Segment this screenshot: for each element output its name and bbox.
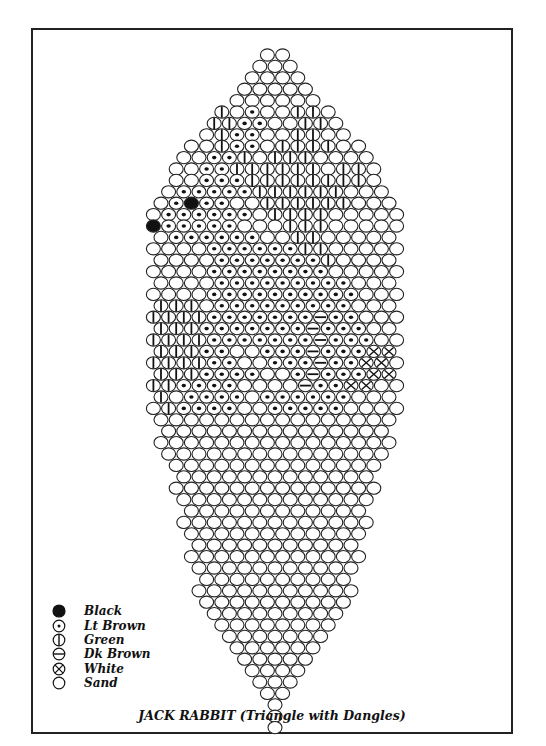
bead [374, 402, 388, 414]
bead [276, 72, 290, 84]
bead [253, 288, 267, 300]
bead [245, 129, 259, 141]
bead [253, 152, 267, 164]
bead [215, 505, 229, 517]
bead [314, 425, 328, 437]
bead [359, 209, 373, 221]
bead [222, 117, 236, 129]
bead [298, 471, 312, 483]
bead [253, 494, 267, 506]
dotted-circle-icon [52, 619, 66, 633]
bead [215, 459, 229, 471]
bead [336, 197, 350, 209]
bead [184, 254, 198, 266]
bead [215, 163, 229, 175]
bead [268, 186, 282, 198]
bead [336, 482, 350, 494]
bead [352, 414, 366, 426]
bead [276, 300, 290, 312]
bead [260, 482, 274, 494]
bead [169, 231, 183, 243]
bead [268, 357, 282, 369]
bead [146, 334, 160, 346]
bead [283, 83, 297, 95]
bead [306, 368, 320, 380]
bead [374, 448, 388, 460]
bead [169, 277, 183, 289]
pattern-title: JACK RABBIT (Triangle with Dangles) [31, 708, 513, 723]
bead [283, 60, 297, 72]
bead [314, 266, 328, 278]
bead [306, 528, 320, 540]
bead [222, 471, 236, 483]
bead [344, 380, 358, 392]
bead [230, 368, 244, 380]
bead [146, 311, 160, 323]
bead [215, 197, 229, 209]
bead [253, 516, 267, 528]
bead [260, 254, 274, 266]
bead [222, 266, 236, 278]
bead [192, 516, 206, 528]
bead [298, 630, 312, 642]
bead [230, 482, 244, 494]
bead [367, 459, 381, 471]
bead [200, 323, 214, 335]
bead [253, 425, 267, 437]
bead [298, 288, 312, 300]
bead [238, 585, 252, 597]
bead [268, 60, 282, 72]
bead [390, 357, 404, 369]
bead [359, 334, 373, 346]
bead [154, 323, 168, 335]
bead [276, 391, 290, 403]
legend-label: Lt Brown [84, 619, 146, 633]
bead [374, 243, 388, 255]
bead [314, 380, 328, 392]
bead [283, 288, 297, 300]
bead [352, 459, 366, 471]
bead [184, 551, 198, 563]
bead [321, 505, 335, 517]
bead [268, 83, 282, 95]
bead [253, 243, 267, 255]
legend-label: Green [84, 633, 125, 647]
bead [184, 482, 198, 494]
bead [329, 209, 343, 221]
bead [238, 152, 252, 164]
bead [329, 266, 343, 278]
bead [162, 357, 176, 369]
bead [238, 539, 252, 551]
bead [222, 585, 236, 597]
bead [230, 323, 244, 335]
bead [177, 243, 191, 255]
bead [200, 231, 214, 243]
bead [291, 345, 305, 357]
bead [260, 596, 274, 608]
bead [184, 277, 198, 289]
bead [177, 380, 191, 392]
bead [245, 482, 259, 494]
bead [177, 288, 191, 300]
bead [268, 448, 282, 460]
bead [276, 459, 290, 471]
bead [238, 562, 252, 574]
bead [215, 300, 229, 312]
bead [215, 174, 229, 186]
bead [230, 300, 244, 312]
bead [382, 368, 396, 380]
bead [253, 60, 267, 72]
bead [245, 642, 259, 654]
bead [238, 608, 252, 620]
bead [207, 311, 221, 323]
bead [162, 186, 176, 198]
bead [222, 243, 236, 255]
bead [215, 106, 229, 118]
bead [367, 368, 381, 380]
bead [359, 471, 373, 483]
bead [215, 368, 229, 380]
bead [291, 505, 305, 517]
bead [390, 402, 404, 414]
bead [268, 676, 282, 688]
legend-label: White [84, 662, 124, 676]
